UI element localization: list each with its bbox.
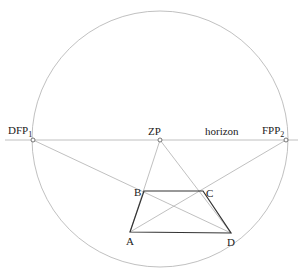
construction-line-fpp2-a [130,140,286,232]
label-dfp1: DFP1 [8,124,32,139]
horizon-label: horizon [205,125,239,137]
label-c: C [206,187,213,199]
label-fpp2: FPP2 [262,124,284,139]
point-marker-fpp2 [284,138,288,142]
construction-line-dfp1-d [33,140,231,233]
point-marker-zp [158,138,162,142]
label-b: B [134,186,141,198]
construction-line-zp-d [160,140,231,233]
construction-lines [33,140,286,233]
perspective-diagram: DFP1 ZP horizon FPP2 B C A D [0,0,300,275]
label-a: A [126,235,134,247]
label-d: D [227,236,235,248]
label-zp: ZP [148,125,161,137]
trapezoid-abcd [130,191,231,233]
